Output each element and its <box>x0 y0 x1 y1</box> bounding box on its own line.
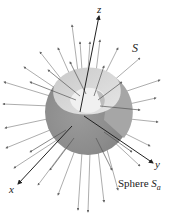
z-axis-label: z <box>97 4 101 15</box>
x-axis-label: x <box>9 184 14 195</box>
diagram-figure: z S y x Sphere Sa <box>0 0 173 223</box>
surface-s-label: S <box>132 42 138 54</box>
sphere-sa-label: Sphere Sa <box>118 178 161 192</box>
sphere-label-text: Sphere <box>118 177 151 189</box>
y-axis-label: y <box>155 159 160 170</box>
sphere-subscript: a <box>157 183 161 192</box>
